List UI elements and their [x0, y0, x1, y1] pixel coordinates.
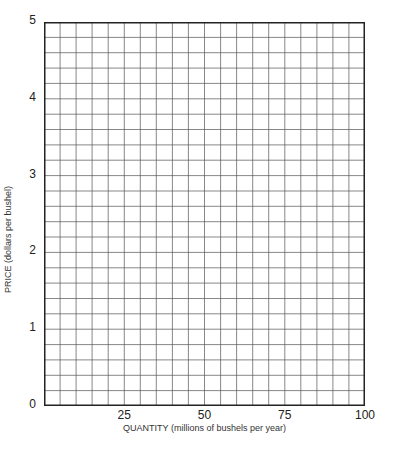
x-tick-label: 100 [345, 408, 385, 422]
x-tick-label: 25 [104, 408, 144, 422]
y-tick-label: 0 [16, 397, 36, 411]
plot-area [44, 22, 365, 406]
y-tick-label: 4 [16, 90, 36, 104]
y-tick-label: 3 [16, 167, 36, 181]
x-tick-label: 75 [265, 408, 305, 422]
y-axis-label: PRICE (dollars per bushel) [3, 133, 13, 293]
x-tick-label: 50 [185, 408, 225, 422]
y-tick-label: 1 [16, 320, 36, 334]
y-tick-label: 5 [16, 13, 36, 27]
x-axis-label: QUANTITY (millions of bushels per year) [44, 423, 365, 433]
y-tick-label: 2 [16, 243, 36, 257]
